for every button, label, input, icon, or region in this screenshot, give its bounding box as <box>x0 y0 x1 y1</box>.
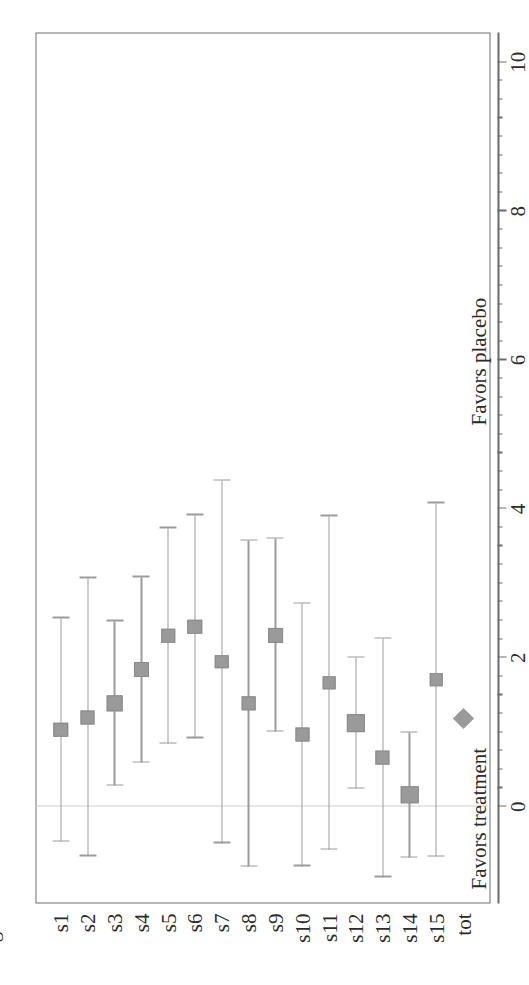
ci-cap-lower <box>106 784 123 785</box>
ci-cap-lower <box>400 856 417 857</box>
effect-marker-s8 <box>241 696 255 710</box>
study-label-s5: s5 <box>157 913 179 932</box>
axis-tick-minor <box>497 563 502 564</box>
ci-cap-lower <box>293 864 310 865</box>
favors-treatment-label: Favors treatment <box>466 747 490 889</box>
effect-marker-s10 <box>295 727 309 741</box>
ci-cap-upper <box>293 602 310 603</box>
effect-marker-s6 <box>187 619 202 634</box>
axis-tick-minor <box>497 247 502 248</box>
axis-tick-minor <box>497 768 502 769</box>
effect-marker-s5 <box>160 628 175 643</box>
study-label-s10: s10 <box>291 913 313 942</box>
zero-reference-line <box>35 805 490 806</box>
ci-cap-lower <box>427 855 444 856</box>
axis-tick-minor <box>497 396 502 397</box>
axis-tick-label: 6 <box>506 340 528 380</box>
ci-cap-lower <box>347 787 364 788</box>
effect-marker-s15 <box>429 673 443 687</box>
study-label-s4: s4 <box>130 913 152 932</box>
axis-tick-minor <box>497 321 502 322</box>
effect-marker-s11 <box>322 676 336 690</box>
effect-marker-s7 <box>215 655 229 669</box>
axis-tick-label: 10 <box>506 42 528 82</box>
axis-tick-label: 8 <box>506 191 528 231</box>
cell-weight-s5: 9% <box>0 803 1 831</box>
ci-cap-lower <box>52 840 69 841</box>
effect-marker-s4 <box>133 662 148 677</box>
axis-tick-minor <box>497 749 502 750</box>
axis-tick-minor <box>497 377 502 378</box>
axis-tick-minor <box>497 98 502 99</box>
axis-tick-minor <box>497 582 502 583</box>
study-label-s2: s2 <box>76 913 98 932</box>
ci-cap-upper <box>400 731 417 732</box>
ci-cap-lower <box>240 865 257 866</box>
study-label-s7: s7 <box>210 913 232 932</box>
axis-tick-minor <box>497 675 502 676</box>
axis-tick-minor <box>497 693 502 694</box>
ci-cap-upper <box>320 514 337 515</box>
study-label-s15: s15 <box>425 913 447 942</box>
axis-tick-minor <box>497 786 502 787</box>
favors-placebo-label: Favors placebo <box>466 297 490 425</box>
ci-cap-upper <box>213 479 230 480</box>
effect-marker-s13 <box>375 750 389 764</box>
axis-tick-label: 2 <box>506 637 528 677</box>
ci-cap-upper <box>159 526 176 527</box>
axis-tick-minor <box>497 340 502 341</box>
axis-tick-minor <box>497 79 502 80</box>
cell-weight-s10: 6% <box>0 669 1 697</box>
axis-tick-minor <box>497 619 502 620</box>
ci-cap-lower <box>186 736 203 737</box>
axis-tick-minor <box>497 600 502 601</box>
study-label-s12: s12 <box>344 913 366 942</box>
ci-cap-upper <box>106 619 123 620</box>
axis-tick-minor <box>497 470 502 471</box>
axis-tick-minor <box>497 731 502 732</box>
ci-cap-upper <box>240 539 257 540</box>
study-label-s1: s1 <box>49 913 71 932</box>
axis-tick-minor <box>497 284 502 285</box>
axis-tick-minor <box>497 265 502 266</box>
ci-cap-lower <box>132 761 149 762</box>
axis-tick-minor <box>497 116 502 117</box>
effect-marker-s9 <box>267 627 282 642</box>
cell-weight-s1: 9% <box>0 911 1 939</box>
axis-tick-minor <box>497 544 502 545</box>
study-label-s8: s8 <box>237 913 259 932</box>
effect-marker-s12 <box>347 714 364 731</box>
axis-tick-minor <box>497 433 502 434</box>
cell-weight-s15: 3% <box>0 535 1 563</box>
x-axis-line <box>497 32 499 903</box>
axis-tick-minor <box>497 451 502 452</box>
axis-tick-minor <box>497 414 502 415</box>
study-label-s13: s13 <box>371 913 393 942</box>
axis-tick-minor <box>497 489 502 490</box>
axis-tick-minor <box>497 638 502 639</box>
axis-tick-minor <box>497 526 502 527</box>
axis-tick-label: 4 <box>506 488 528 528</box>
ci-cap-upper <box>347 656 364 657</box>
ci-cap-upper <box>132 576 149 577</box>
study-label-s6: s6 <box>183 913 205 932</box>
study-label-s3: s3 <box>103 913 125 932</box>
axis-tick-minor <box>497 303 502 304</box>
study-label-s9: s9 <box>264 913 286 932</box>
axis-tick-label: 0 <box>506 786 528 826</box>
ci-cap-lower <box>213 841 230 842</box>
axis-tick-minor <box>497 191 502 192</box>
ci-cap-upper <box>79 576 96 577</box>
cell-weight-s7: 3% <box>0 750 1 778</box>
ci-cap-lower <box>266 730 283 731</box>
study-label-tot: tot <box>452 913 474 935</box>
plot-frame <box>35 32 490 903</box>
ci-cap-lower <box>374 876 391 877</box>
study-label-s11: s11 <box>318 913 340 941</box>
effect-marker-s3 <box>106 695 122 711</box>
axis-tick-minor <box>497 228 502 229</box>
effect-marker-s1 <box>53 722 68 737</box>
axis-tick-minor <box>497 135 502 136</box>
effect-marker-s2 <box>80 710 94 724</box>
